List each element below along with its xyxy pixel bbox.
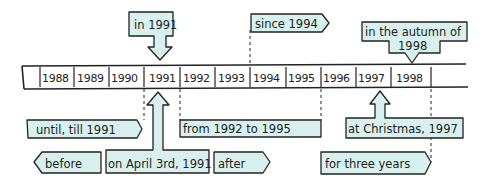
- svg-text:on April 3rd, 1991: on April 3rd, 1991: [108, 157, 212, 171]
- svg-text:in the autumn of: in the autumn of: [365, 25, 462, 39]
- timeline-left-edge: [22, 66, 24, 89]
- svg-text:1998: 1998: [398, 39, 427, 53]
- year-1988: 1988: [42, 72, 69, 85]
- timeline: 1988 1989 1990 1991 1992 1993 1994 1995 …: [22, 64, 468, 89]
- year-1991: 1991: [149, 72, 176, 85]
- svg-text:since 1994: since 1994: [255, 17, 318, 31]
- svg-text:at Christmas, 1997: at Christmas, 1997: [348, 122, 458, 136]
- year-1995: 1995: [288, 72, 315, 85]
- label-in-the-autumn-of-1998: in the autumn of 1998: [362, 22, 467, 63]
- svg-text:from 1992 to 1995: from 1992 to 1995: [183, 122, 291, 136]
- label-in-1991: in 1991: [129, 12, 177, 60]
- year-1990: 1990: [111, 72, 138, 85]
- svg-text:until, till 1991: until, till 1991: [36, 123, 116, 137]
- year-1993: 1993: [218, 72, 245, 85]
- year-1989: 1989: [77, 72, 104, 85]
- year-1997: 1997: [358, 72, 385, 85]
- label-since-1994: since 1994: [251, 14, 329, 32]
- label-at-christmas-1997: at Christmas, 1997: [346, 91, 463, 138]
- timeline-top-line: [22, 64, 466, 66]
- label-for-three-years: for three years: [321, 152, 431, 174]
- label-before: before: [34, 152, 101, 173]
- prepositions-of-time-diagram: 1988 1989 1990 1991 1992 1993 1994 1995 …: [0, 0, 493, 188]
- svg-text:before: before: [45, 157, 82, 171]
- svg-text:after: after: [218, 157, 245, 171]
- guide-lines: [144, 30, 431, 162]
- year-1994: 1994: [253, 72, 280, 85]
- svg-text:for three years: for three years: [325, 157, 410, 171]
- svg-text:in 1991: in 1991: [134, 18, 177, 32]
- label-from-1992-to-1995: from 1992 to 1995: [180, 120, 321, 137]
- label-after: after: [214, 152, 270, 173]
- year-1998: 1998: [396, 72, 423, 85]
- label-until-till-1991: until, till 1991: [27, 120, 142, 138]
- year-1996: 1996: [323, 72, 350, 85]
- timeline-bottom-line: [24, 87, 468, 89]
- year-1992: 1992: [183, 72, 210, 85]
